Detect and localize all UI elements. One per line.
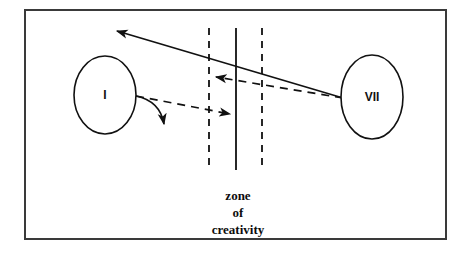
zone-caption-line-1: zone — [225, 188, 251, 203]
diagram-canvas: I VII zone of creativity — [0, 0, 470, 253]
zone-caption-line-3: creativity — [212, 222, 265, 237]
node-label-i: I — [103, 88, 106, 102]
concept-diagram: I VII zone of creativity — [0, 0, 470, 253]
node-label-vii: VII — [365, 90, 380, 104]
zone-caption-line-2: of — [233, 205, 245, 220]
